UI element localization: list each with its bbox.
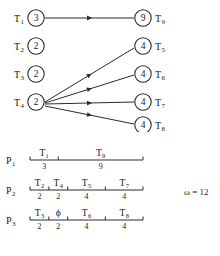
arrow-head-icon	[87, 16, 92, 21]
processor-label: P1	[6, 155, 16, 169]
node-T2: 2T2	[14, 38, 44, 54]
node-T3: 2T3	[14, 66, 44, 82]
slot-duration-label: 4	[85, 222, 89, 231]
schedule-row-P1: P1T13T99	[6, 148, 143, 172]
slot-task-label: T7	[119, 178, 129, 189]
node-value: 2	[34, 41, 39, 51]
processor-schedule-chart: P1T13T99P2T22T42T54T74P3T32ϕ2T64T84 ω = …	[0, 132, 220, 256]
slot-task-label: T8	[119, 208, 128, 219]
processor-label: P2	[6, 185, 16, 199]
node-value: 4	[141, 97, 146, 107]
node-label: T6	[155, 69, 166, 83]
schedule-row-P3: P3T32ϕ2T64T84	[6, 208, 143, 232]
node-value: 4	[141, 69, 146, 79]
node-T7: 4T7	[135, 94, 166, 110]
graph-canvas: 3T12T22T32T4 9T94T54T64T74T8	[0, 0, 220, 132]
makespan-annotation: ω = 12	[184, 187, 209, 197]
slot-duration-label: 4	[122, 222, 126, 231]
node-label: T1	[14, 13, 25, 27]
edge-T4-to-T8	[45, 106, 134, 124]
slot-duration-label: 2	[56, 192, 60, 201]
arrow-head-icon	[86, 87, 91, 92]
schedule-canvas: P1T13T99P2T22T42T54T74P3T32ϕ2T64T84 ω = …	[0, 132, 220, 256]
node-T9: 9T9	[135, 10, 166, 26]
node-label: T4	[14, 97, 25, 111]
slot-duration-label: 2	[56, 222, 60, 231]
node-T6: 4T6	[135, 66, 166, 82]
node-label: T2	[14, 41, 25, 55]
node-label: T7	[155, 97, 166, 111]
node-label: T8	[155, 120, 166, 132]
schedule-row-P2: P2T22T42T54T74	[6, 178, 143, 202]
schedule-rows-group: P1T13T99P2T22T42T54T74P3T32ϕ2T64T84	[6, 148, 143, 232]
node-T8: 4T8	[135, 117, 166, 132]
slot-task-label: T5	[82, 178, 91, 189]
slot-task-label: T1	[39, 148, 48, 159]
slot-task-label: T9	[96, 148, 105, 159]
slot-duration-label: 4	[85, 192, 89, 201]
node-T1: 3T1	[14, 10, 44, 26]
node-value: 4	[141, 41, 146, 51]
edge-T4-to-T7	[45, 101, 134, 106]
slot-duration-label: 9	[99, 162, 103, 171]
edge-T4-to-T5	[45, 48, 134, 102]
arrow-head-icon	[87, 101, 92, 106]
node-label: T9	[155, 13, 166, 27]
slot-duration-label: 2	[37, 192, 41, 201]
slot-task-label: T3	[35, 208, 44, 219]
slot-task-label: T4	[54, 178, 64, 189]
slot-duration-label: 4	[122, 192, 126, 201]
processor-label: P3	[6, 215, 16, 229]
task-precedence-graph: 3T12T22T32T4 9T94T54T64T74T8	[0, 0, 220, 132]
slot-task-label: T2	[35, 178, 44, 189]
arrow-head-icon	[87, 112, 92, 117]
edge-T4-to-T6	[45, 75, 134, 103]
slot-duration-label: 3	[42, 162, 46, 171]
node-value: 2	[34, 69, 39, 79]
node-T5: 4T5	[135, 38, 166, 54]
right-nodes-group: 9T94T54T64T74T8	[135, 10, 166, 132]
node-label: T3	[14, 69, 25, 83]
edges-group	[45, 16, 134, 124]
slot-duration-label: 2	[37, 222, 41, 231]
left-nodes-group: 3T12T22T32T4	[14, 10, 44, 110]
node-value: 9	[141, 13, 146, 23]
node-T4: 2T4	[14, 94, 44, 110]
slot-task-label: ϕ	[56, 208, 61, 218]
edge-T1-to-T9	[45, 16, 134, 21]
node-value: 3	[34, 13, 39, 23]
slot-task-label: T6	[82, 208, 92, 219]
node-value: 4	[141, 120, 146, 130]
node-value: 2	[34, 97, 39, 107]
node-label: T5	[155, 41, 166, 55]
